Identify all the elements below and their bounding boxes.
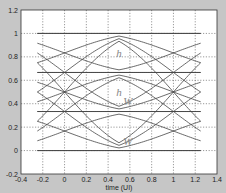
eye-diagram-plot: -0.4-0.200.20.40.60.811.21.4-0.200.20.40…: [0, 0, 226, 193]
x-axis-label: time (UI): [106, 184, 133, 192]
y-tick-label: 0.4: [8, 100, 18, 107]
y-tick-label: -0.2: [6, 171, 18, 178]
eye-diagram-figure: -0.4-0.200.20.40.60.811.21.4-0.200.20.40…: [0, 0, 226, 193]
y-tick-label: 1.2: [8, 7, 18, 14]
x-tick-label: 0.6: [125, 176, 135, 183]
y-tick-label: 0.8: [8, 53, 18, 60]
x-tick-label: 0: [63, 176, 67, 183]
y-tick-label: 0: [14, 147, 18, 154]
x-tick-label: 1: [171, 176, 175, 183]
x-tick-label: 1.2: [190, 176, 200, 183]
eye-annotation-w: W: [123, 135, 133, 147]
x-tick-label: 0.8: [147, 176, 157, 183]
x-tick-label: 0.4: [103, 176, 113, 183]
x-tick-label: 1.4: [212, 176, 222, 183]
y-tick-label: 1: [14, 30, 18, 37]
x-tick-label: 0.2: [81, 176, 91, 183]
y-tick-label: 0.6: [8, 77, 18, 84]
eye-annotation-w: W: [123, 95, 133, 107]
y-tick-label: 0.2: [8, 124, 18, 131]
eye-annotation-h: h: [116, 47, 122, 59]
x-tick-label: -0.2: [37, 176, 49, 183]
eye-annotation-h: h: [116, 86, 122, 98]
